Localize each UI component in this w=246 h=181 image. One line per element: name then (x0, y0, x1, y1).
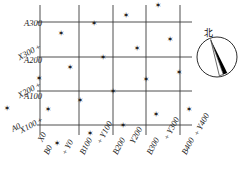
axis-label-bottom: + Y100 (95, 120, 114, 145)
axis-label-bottom: B300 (145, 136, 161, 156)
axis-label-bottom: B200 (111, 136, 127, 156)
axis-label-bottom: Y200 (128, 126, 144, 145)
axis-label-text: B0 (41, 143, 54, 156)
axis-label-text: Y400 (194, 111, 211, 131)
axis-label-text: X0 (35, 130, 48, 143)
axis-label-text: B400 (179, 136, 196, 157)
axis-label-bottom: X0 (36, 131, 48, 143)
axis-label-text: Y300 (164, 115, 181, 135)
axis-label-text: B200 (110, 136, 127, 157)
axis-label-bottom: + Y400 (192, 112, 211, 137)
axis-label-text: Y100 (97, 119, 114, 139)
axis-label-bottom: + Y0 (60, 138, 75, 156)
survey-grid-diagram: ✶✶✶✶✶✶✶✶✶✶✶✶✶✶✶✶✶✶✶✶ 北 A300X300 +A200X20… (0, 0, 246, 181)
axis-label-text: Y200 (127, 125, 144, 145)
axis-label-bottom: B400 (180, 136, 196, 156)
bottom-axis-labels: X0B0+ Y0B100+ Y100B200Y200B300+ Y300B400… (0, 0, 246, 181)
axis-label-bottom: + Y300 (162, 116, 181, 141)
axis-label-bottom: B0 (42, 144, 54, 156)
axis-label-bottom: B100 (78, 136, 94, 156)
axis-label-text: B100 (77, 136, 94, 157)
axis-label-text: B300 (144, 136, 161, 157)
